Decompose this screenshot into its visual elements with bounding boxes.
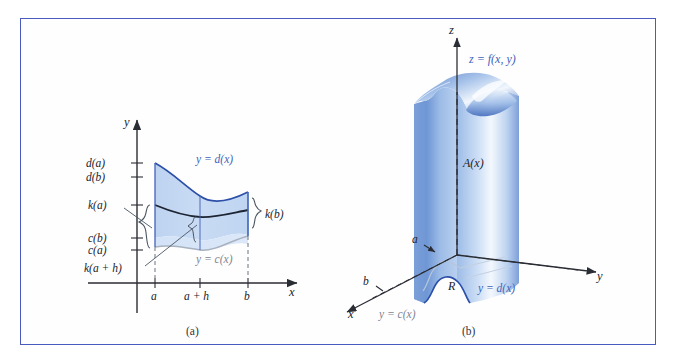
caption-panel-b: (b): [462, 325, 476, 338]
y-tick-label-ka: k(a): [88, 199, 107, 212]
caption-panel-a: (a): [186, 325, 199, 338]
panel-a-group: y x d(a) d(b) k(a) c(b) c(a) a a + h b y…: [84, 115, 297, 338]
brace-k-of-a: [139, 205, 150, 248]
label-y-equals-c-of-x: y = c(x): [195, 253, 233, 266]
x-tick-label-a-plus-h: a + h: [184, 290, 209, 302]
y-axis-label-a: y: [122, 115, 130, 129]
solid-front-face: [414, 88, 457, 304]
label-boundary-d-3d: y = d(x): [477, 282, 515, 295]
brace-k-of-b: [252, 198, 261, 228]
leader-ka: [124, 208, 152, 228]
y-tick-label-da: d(a): [86, 157, 105, 170]
label-z-equals-f: z = f(x, y): [468, 52, 516, 66]
x-axis-label-a: x: [288, 285, 295, 299]
x-tick-label-a: a: [151, 290, 157, 302]
region-band-fill: [155, 163, 248, 240]
y-tick-label-ca: c(a): [88, 244, 107, 257]
y-tick-label-db: d(b): [86, 171, 105, 184]
z-axis-label: z: [448, 23, 454, 37]
tick-b-3d: [376, 286, 383, 291]
x-tick-label-b: b: [244, 290, 250, 302]
figure-page: y x d(a) d(b) k(a) c(b) c(a) a a + h b y…: [0, 0, 677, 363]
figure-canvas: y x d(a) d(b) k(a) c(b) c(a) a a + h b y…: [0, 0, 677, 363]
tick-label-b-3d: b: [363, 275, 369, 287]
panel-b-group: z y x z = f(x, y) A(x) R a b y = d(x) y …: [347, 23, 603, 338]
x-axis-label-3d: x: [347, 307, 354, 321]
label-k-of-b: k(b): [265, 208, 284, 221]
label-region-R: R: [447, 279, 456, 293]
label-k-of-a-plus-h: k(a + h): [84, 262, 122, 275]
y-axis-label-3d: y: [595, 269, 603, 283]
solid-right-face: [457, 92, 519, 303]
tick-label-a-3d: a: [412, 233, 418, 245]
label-A-of-x: A(x): [462, 156, 484, 170]
label-y-equals-d-of-x: y = d(x): [195, 153, 233, 166]
label-boundary-c-3d: y = c(x): [378, 308, 416, 321]
